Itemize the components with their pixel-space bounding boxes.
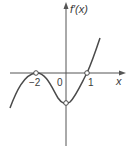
tick-label-neg2: −2	[29, 77, 41, 88]
y-axis-label: f′(x)	[70, 3, 88, 15]
tick-label-0: 0	[57, 77, 63, 88]
point-y-intercept	[64, 101, 69, 106]
tick-label-1: 1	[88, 77, 94, 88]
point-root-neg2	[34, 71, 39, 76]
x-axis-label: x	[115, 75, 122, 87]
derivative-graph: f′(x) x −2 0 1	[0, 0, 129, 146]
point-root-1	[85, 71, 90, 76]
y-axis-arrow-icon	[64, 2, 69, 9]
